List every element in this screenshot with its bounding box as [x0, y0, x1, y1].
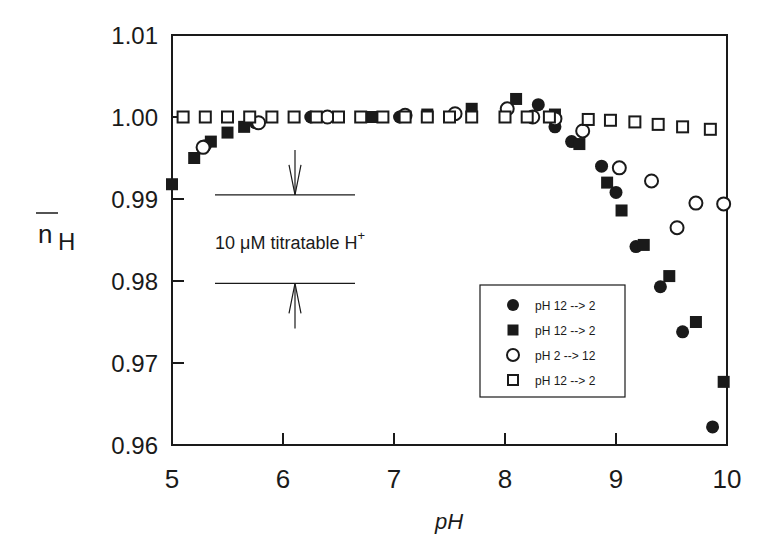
open-square-marker [422, 112, 433, 123]
filled-circle-marker [532, 98, 545, 111]
x-tick-label: 10 [713, 464, 742, 494]
open-square-marker [400, 112, 411, 123]
titration-chart: 0.960.970.980.991.001.01 5678910 n H pH … [0, 0, 782, 559]
open-square-marker [289, 112, 300, 123]
open-square-marker [266, 112, 277, 123]
filled-circle-marker [595, 160, 608, 173]
open-circle-marker [689, 197, 702, 210]
open-square-marker [377, 112, 388, 123]
filled-square-marker [188, 152, 200, 164]
filled-circle-marker [507, 299, 519, 311]
open-circle-marker [197, 141, 210, 154]
legend-label: pH 12 --> 2 [535, 324, 596, 338]
filled-square-marker [663, 270, 675, 282]
open-circle-marker [507, 349, 519, 361]
open-circle-marker [613, 161, 626, 174]
filled-square-marker [638, 239, 650, 251]
open-square-marker [222, 112, 233, 123]
open-square-marker [522, 112, 533, 123]
x-tick-label: 6 [276, 464, 290, 494]
x-tick-label: 7 [387, 464, 401, 494]
open-square-marker [178, 112, 189, 123]
data-points [166, 93, 730, 434]
y-axis-title: n H [36, 213, 75, 255]
annotation-text: 10 μM titratable H+ [215, 228, 365, 253]
x-axis-title: pH [434, 509, 463, 534]
y-tick-label: 1.00 [111, 104, 158, 131]
open-circle-marker [645, 174, 658, 187]
open-square-marker [466, 112, 477, 123]
x-tick-label: 5 [165, 464, 179, 494]
legend-label: pH 12 --> 2 [535, 299, 596, 313]
filled-square-marker [366, 111, 378, 123]
titratable-h-annotation: 10 μM titratable H+ [215, 150, 365, 329]
open-square-marker [244, 112, 255, 123]
filled-circle-marker [676, 325, 689, 338]
filled-square-marker [573, 138, 585, 150]
open-square-marker [677, 121, 688, 132]
y-axis-title-sub: H [58, 228, 75, 255]
legend-label: pH 12 --> 2 [535, 374, 596, 388]
open-square-marker [200, 112, 211, 123]
open-square-marker [500, 112, 511, 123]
legend-label: pH 2 --> 12 [535, 349, 596, 363]
x-tick-label: 9 [609, 464, 623, 494]
open-square-marker [629, 116, 640, 127]
open-circle-marker [717, 197, 730, 210]
open-circle-marker [671, 221, 684, 234]
filled-square-marker [508, 325, 519, 336]
filled-square-marker [616, 204, 628, 216]
y-tick-label: 0.99 [111, 186, 158, 213]
filled-square-marker [222, 127, 234, 139]
filled-circle-marker [706, 420, 719, 433]
open-square-marker [544, 112, 555, 123]
y-tick-label: 0.97 [111, 350, 158, 377]
open-square-marker [653, 119, 664, 130]
filled-square-marker [166, 178, 178, 190]
open-square-marker [605, 115, 616, 126]
filled-square-marker [718, 376, 730, 388]
series-filled-circle [199, 98, 719, 433]
open-square-marker [444, 112, 455, 123]
open-square-marker [333, 112, 344, 123]
open-circle-marker [576, 124, 589, 137]
y-axis: 0.960.970.980.991.001.01 [111, 22, 184, 459]
y-axis-title-main: n [38, 219, 52, 249]
arrow-down-icon [289, 150, 301, 195]
x-axis: 5678910 [165, 433, 742, 494]
x-tick-label: 8 [498, 464, 512, 494]
y-tick-label: 1.01 [111, 22, 158, 49]
open-square-marker [355, 112, 366, 123]
open-circle-marker [321, 111, 334, 124]
open-square-marker [311, 112, 322, 123]
y-tick-label: 0.96 [111, 432, 158, 459]
filled-circle-marker [654, 280, 667, 293]
open-square-marker [508, 375, 518, 385]
open-square-marker [583, 114, 594, 125]
filled-square-marker [601, 177, 613, 189]
legend: pH 12 --> 2pH 12 --> 2pH 2 --> 12pH 12 -… [480, 285, 625, 397]
y-tick-label: 0.98 [111, 268, 158, 295]
open-square-marker [705, 124, 716, 135]
filled-square-marker [690, 316, 702, 328]
arrow-up-icon [289, 283, 301, 328]
